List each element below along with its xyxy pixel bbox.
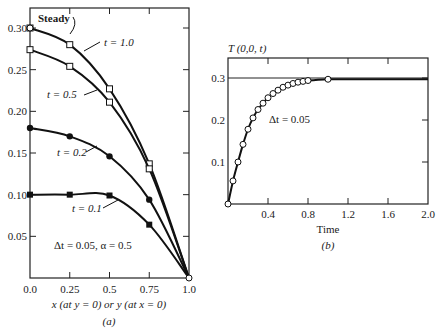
params-annotation: Δt = 0.05, α = 0.5 (54, 239, 132, 251)
open-circle-marker (325, 76, 331, 82)
filled-circle-marker (67, 133, 73, 139)
open-circle-marker (225, 201, 231, 207)
caption-a: (a) (103, 315, 116, 328)
open-circle-marker (265, 95, 271, 101)
t05-leader (84, 90, 97, 95)
t02-leader (86, 146, 97, 152)
open-square-marker (67, 42, 73, 48)
y-tick-label: 0.1 (211, 156, 225, 168)
caption-b: (b) (322, 239, 335, 252)
open-square-marker (67, 63, 73, 69)
open-circle-marker (260, 100, 266, 106)
open-circle-marker (250, 115, 256, 121)
x-axis-label: x (at y = 0) or y (at x = 0) (51, 298, 167, 311)
open-circle-marker (186, 275, 192, 281)
open-circle-marker (255, 107, 261, 113)
open-circle-marker (305, 78, 311, 84)
open-circle-marker (245, 126, 251, 132)
t05-label: t = 0.5 (47, 88, 77, 100)
filled-circle-marker (146, 196, 152, 202)
filled-square-marker (67, 192, 73, 198)
t01-label: t = 0.1 (72, 202, 102, 214)
x-tick-label: 0.4 (261, 208, 275, 220)
plot-a-frame (30, 8, 189, 278)
x-tick-label: 0.0 (23, 283, 37, 295)
open-circle-marker (235, 159, 241, 165)
open-circle-marker (230, 178, 236, 184)
open-circle-marker (240, 141, 246, 147)
plot-b: 0.40.81.21.62.00.10.20.3T (0,0, t)Δt = 0… (211, 42, 435, 252)
y-tick-label: 0.30 (8, 22, 28, 34)
y-axis-title: T (0,0, t) (228, 42, 267, 55)
figure-canvas: 0.00.250.50.751.00.050.100.150.200.250.3… (0, 0, 443, 335)
x-tick-label: 0.8 (301, 208, 315, 220)
open-square-marker (27, 47, 33, 53)
open-square-marker (146, 166, 152, 172)
x-tick-label: 1.0 (182, 283, 196, 295)
y-tick-label: 0.10 (8, 189, 28, 201)
x-axis-label: Time (317, 223, 340, 235)
filled-square-marker (27, 192, 33, 198)
x-tick-label: 1.2 (341, 208, 355, 220)
x-tick-label: 0.75 (140, 283, 160, 295)
steady-arrow (70, 17, 75, 34)
t10-label: t = 1.0 (104, 36, 134, 48)
x-tick-label: 0.25 (60, 283, 80, 295)
t02-label: t = 0.2 (57, 146, 87, 158)
t10-leader (84, 42, 100, 51)
dt-annotation: Δt = 0.05 (269, 113, 311, 125)
plot-a: 0.00.250.50.751.00.050.100.150.200.250.3… (8, 8, 197, 328)
filled-circle-marker (106, 153, 112, 159)
open-circle-marker (27, 25, 33, 31)
y-tick-label: 0.15 (8, 147, 28, 159)
filled-square-marker (107, 193, 113, 199)
filled-square-marker (146, 222, 152, 228)
x-tick-label: 0.5 (103, 283, 117, 295)
filled-circle-marker (27, 125, 33, 131)
y-tick-label: 0.05 (8, 230, 28, 242)
open-square-marker (107, 86, 113, 92)
t01-leader (103, 200, 118, 208)
x-tick-label: 2.0 (421, 208, 435, 220)
open-square-marker (107, 99, 113, 105)
y-tick-label: 0.3 (211, 72, 225, 84)
y-tick-label: 0.20 (8, 105, 28, 117)
x-tick-label: 1.6 (381, 208, 395, 220)
y-tick-label: 0.2 (211, 114, 225, 126)
steady-label: Steady (38, 12, 70, 24)
series-line (30, 128, 189, 278)
y-tick-label: 0.25 (8, 64, 28, 76)
